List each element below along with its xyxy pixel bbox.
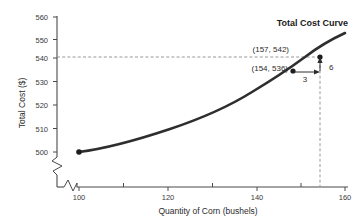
run-delta-label: 3: [303, 75, 308, 84]
y-tick-label-500: 500: [35, 148, 48, 157]
x-tick-label-160: 160: [339, 193, 352, 202]
y-tick-label-530: 530: [35, 78, 48, 87]
x-tick-label-120: 120: [162, 193, 175, 202]
y-axis-break-icon: [52, 157, 62, 175]
x-tick-label-100: 100: [73, 193, 86, 202]
data-point-154-536-marker: [290, 68, 295, 73]
curve-start-dot: [76, 149, 82, 155]
x-axis-title: Quantity of Corn (bushels): [158, 206, 257, 216]
y-tick-label-510: 510: [35, 125, 48, 134]
y-tick-label-540: 540: [35, 54, 48, 63]
run-arrow-head: [314, 69, 320, 74]
x-axis-break-icon: [64, 180, 77, 191]
y-tick-label-550: 550: [35, 36, 48, 45]
y-tick-marks: [53, 17, 57, 152]
total-cost-curve-line: [79, 33, 345, 152]
curve-title-label: Total Cost Curve: [277, 18, 348, 28]
data-point-157-542-label: (157, 542): [253, 45, 290, 54]
chart-canvas: 560 550 540 530 520 510 500 100 120 140 …: [0, 0, 359, 219]
rise-delta-label: 6: [329, 63, 334, 72]
x-tick-label-140: 140: [251, 193, 264, 202]
data-point-154-536-label: (154, 536): [252, 64, 289, 73]
total-cost-curve-chart: 560 550 540 530 520 510 500 100 120 140 …: [0, 0, 359, 219]
y-tick-label-520: 520: [35, 101, 48, 110]
y-axis-title: Total Cost ($): [17, 78, 27, 129]
y-tick-label-560: 560: [35, 13, 48, 22]
